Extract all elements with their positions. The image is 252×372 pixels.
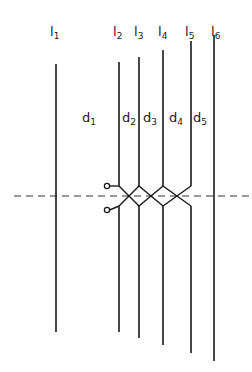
crossing-segment-8 [163,186,177,196]
gap-label-d3: d3 [143,111,157,127]
gap-label-d2: d2 [122,111,136,127]
label-subscript: 1 [90,117,96,127]
crossing-segment-1 [129,196,139,206]
line-label-l5: l5 [185,25,194,41]
label-subscript: 1 [54,31,60,41]
terminal-lower-stub [110,206,119,210]
gap-label-d4: d4 [169,111,183,127]
crossing-segment-0 [119,186,129,196]
crossing-segment-6 [139,196,151,206]
transmission-line-diagram [0,0,252,372]
crossing-junction [104,183,191,212]
terminal-upper-circle-icon [104,183,109,188]
label-subscript: 5 [189,31,195,41]
line-label-l6: l6 [211,25,220,41]
label-subscript: 5 [201,117,207,127]
line-label-l3: l3 [134,25,143,41]
line-label-l2: l2 [113,25,122,41]
crossing-segment-10 [163,196,177,206]
label-subscript: 6 [215,31,221,41]
label-subscript: 2 [130,117,136,127]
label-subscript: 2 [117,31,123,41]
crossing-segment-2 [119,196,129,206]
crossing-segment-11 [177,186,191,196]
crossing-segment-3 [129,186,139,196]
gap-label-d1: d1 [82,111,96,127]
label-subscript: 3 [151,117,157,127]
line-label-l4: l4 [158,25,167,41]
label-subscript: 3 [138,31,144,41]
line-label-l1: l1 [50,25,59,41]
label-subscript: 4 [177,117,183,127]
label-subscript: 4 [162,31,168,41]
crossing-segment-5 [151,196,163,206]
crossing-segment-9 [177,196,191,206]
terminal-lower-circle-icon [104,207,109,212]
conductor-lines [56,35,214,361]
crossing-segment-4 [139,186,151,196]
crossing-segment-7 [151,186,163,196]
gap-label-d5: d5 [193,111,207,127]
